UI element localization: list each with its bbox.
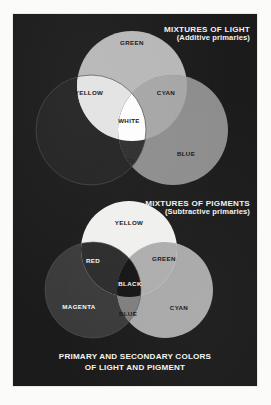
heading-pigment-line2: (Subtractive primaries) [145, 208, 250, 217]
figure-root: MIXTURES OF LIGHT (Additive primaries) [0, 0, 271, 405]
dark-plate: MIXTURES OF LIGHT (Additive primaries) [13, 14, 257, 386]
caption-line1: PRIMARY AND SECONDARY COLORS [13, 352, 257, 363]
figure-caption: PRIMARY AND SECONDARY COLORS OF LIGHT AN… [13, 352, 257, 374]
caption-line2: OF LIGHT AND PIGMENT [13, 363, 257, 374]
heading-light-line2: (Additive primaries) [164, 34, 250, 43]
heading-mixtures-of-light: MIXTURES OF LIGHT (Additive primaries) [164, 25, 250, 43]
heading-mixtures-of-pigments: MIXTURES OF PIGMENTS (Subtractive primar… [145, 199, 250, 217]
venn-subtractive [13, 194, 257, 354]
panel-mixtures-of-pigments: MIXTURES OF PIGMENTS (Subtractive primar… [13, 194, 257, 354]
panel-mixtures-of-light: MIXTURES OF LIGHT (Additive primaries) [13, 14, 257, 194]
